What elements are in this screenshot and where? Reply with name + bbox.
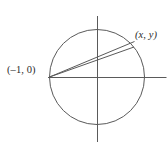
chord-line-icon	[50, 42, 135, 78]
chord-line-icon	[50, 47, 135, 77]
unit-circle-figure: (–1, 0) (x, y)	[0, 0, 167, 147]
point-label-x-y: (x, y)	[135, 30, 157, 41]
point-label-neg-one-zero: (–1, 0)	[7, 65, 36, 76]
